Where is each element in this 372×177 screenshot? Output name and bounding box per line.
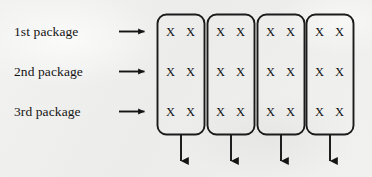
column-box-2 [208, 15, 255, 135]
package-allocation-diagram: 1st package 2nd package 3rd package [0, 0, 372, 177]
cell-mark: X [166, 66, 175, 79]
cell-mark: X [186, 66, 195, 79]
cell-mark: X [315, 66, 324, 79]
cell-mark: X [166, 106, 175, 119]
cell-mark: X [216, 106, 225, 119]
cell-mark: X [216, 26, 225, 39]
cell-mark: X [335, 66, 344, 79]
cell-mark: X [315, 26, 324, 39]
cell-mark: X [186, 106, 195, 119]
column-box-1 [158, 15, 205, 135]
column-box-4 [307, 15, 354, 135]
cell-mark: X [286, 66, 295, 79]
cell-mark: X [286, 106, 295, 119]
cell-mark: X [266, 26, 275, 39]
cell-mark: X [186, 26, 195, 39]
cell-mark: X [335, 26, 344, 39]
cell-mark: X [286, 26, 295, 39]
cell-mark: X [266, 66, 275, 79]
cell-mark: X [236, 26, 245, 39]
cell-mark: X [166, 26, 175, 39]
cell-mark: X [216, 66, 225, 79]
cell-mark: X [315, 106, 324, 119]
cell-mark: X [236, 106, 245, 119]
cell-mark: X [335, 106, 344, 119]
cell-mark: X [266, 106, 275, 119]
cell-mark: X [236, 66, 245, 79]
column-box-3 [258, 15, 305, 135]
